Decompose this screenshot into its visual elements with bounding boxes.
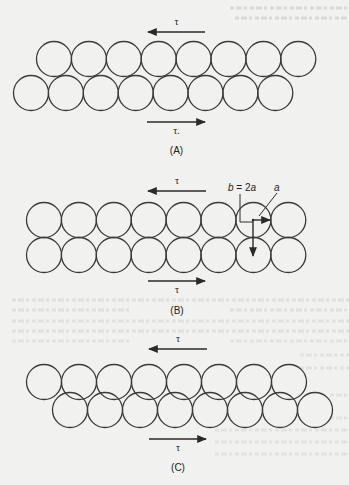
b-leader-line (240, 194, 253, 222)
atom-circle (298, 393, 333, 428)
panel-label: (B) (170, 305, 183, 316)
atom-circle (96, 203, 131, 238)
atom-circle (48, 76, 83, 111)
atom-circle (96, 238, 131, 273)
atom-circle (211, 42, 246, 77)
atom-circle (106, 42, 141, 77)
atom-circle (223, 76, 258, 111)
atom-circle (201, 203, 236, 238)
atom-circle (27, 365, 62, 400)
atom-circle (61, 203, 96, 238)
atom-circle (166, 238, 201, 273)
atom-circle (37, 42, 72, 77)
tau-label-top: τ (174, 16, 178, 27)
panels-container: ττ.(A)ττ(B)ττ(C) (14, 16, 333, 473)
atom-circle (246, 42, 281, 77)
atom-circle (271, 238, 306, 273)
atom-circle (27, 238, 62, 273)
tau-label-bottom: τ (175, 284, 179, 295)
shear-diagram: ττ.(A)ττ(B)ττ(C) b = 2a a (0, 0, 349, 485)
atom-circle (14, 76, 49, 111)
atom-circle (131, 238, 166, 273)
atom-row-top (37, 42, 316, 77)
radius-a-label: a (274, 182, 280, 193)
tau-label-top: τ (175, 175, 179, 186)
atom-circle (281, 42, 316, 77)
tau-label-bottom: τ (176, 442, 180, 453)
atom-circle (141, 42, 176, 77)
panel-b: ττ(B) (27, 175, 306, 316)
atom-circle (153, 76, 188, 111)
atom-circle (27, 203, 62, 238)
atom-circle (176, 42, 211, 77)
atom-circle (131, 203, 166, 238)
atom-row-bottom (14, 76, 293, 111)
atom-circle (201, 238, 236, 273)
tau-label-bottom: τ. (173, 125, 180, 136)
atom-row-bottom (27, 238, 306, 273)
atom-circle (166, 203, 201, 238)
tau-label-top: τ (176, 333, 180, 344)
b-equals-2a-label: b = 2a (228, 182, 257, 193)
atom-circle (61, 238, 96, 273)
atom-circle (71, 42, 106, 77)
atom-circle (188, 76, 223, 111)
atom-circle (118, 76, 153, 111)
atom-circle (258, 76, 293, 111)
panel-label: (C) (171, 462, 185, 473)
atom-circle (271, 203, 306, 238)
panel-c: ττ(C) (27, 333, 333, 473)
panel-label: (A) (170, 145, 183, 156)
atom-circle (83, 76, 118, 111)
panel-a: ττ.(A) (14, 16, 316, 156)
